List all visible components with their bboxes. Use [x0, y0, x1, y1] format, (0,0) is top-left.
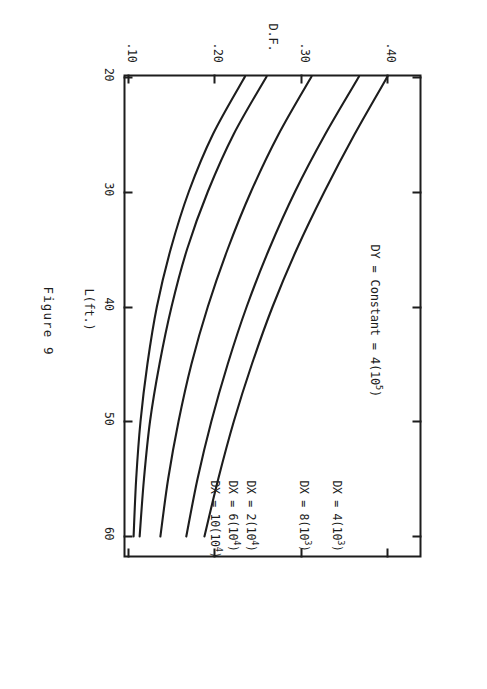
curve-label-close: ) — [225, 544, 239, 551]
y-ticklabel-040: .40 — [383, 42, 397, 62]
curve-label-dx-10e4: DX = 10(104) — [207, 480, 223, 558]
curve-label-text: DX = 8(10 — [296, 480, 310, 540]
curve-2 — [160, 76, 311, 536]
plot-frame: DY = Constant = 4(105) DX = 4(103) DX = … — [123, 74, 421, 557]
x-ticklabel-40: 40 — [101, 297, 115, 310]
y-axis-title: D.F. — [265, 23, 279, 51]
y-tick-010 — [127, 74, 129, 83]
x-ticklabel-60: 60 — [101, 526, 115, 539]
y-tick-right-040 — [386, 548, 388, 557]
y-tick-040 — [386, 74, 388, 83]
x-tick-top-30 — [412, 191, 421, 193]
curve-0 — [204, 76, 387, 536]
constant-annotation: DY = Constant = 4(105) — [367, 244, 383, 396]
y-ticklabel-030: .30 — [297, 42, 311, 62]
curve-label-exponent: 4 — [213, 546, 223, 551]
curve-label-text: DX = 2(10 — [243, 480, 257, 540]
y-tick-030 — [300, 74, 302, 83]
curve-label-close: ) — [243, 544, 257, 551]
x-tick-top-50 — [412, 420, 421, 422]
rotated-figure: DY = Constant = 4(105) DX = 4(103) DX = … — [0, 0, 487, 689]
curve-label-dx-8e3: DX = 8(103) — [296, 480, 312, 551]
x-tick-top-60 — [412, 535, 421, 537]
curve-label-text: DX = 4(10 — [329, 480, 343, 540]
constant-annotation-text: DY = Constant = 4(10 — [367, 244, 381, 385]
figure-caption: Figure 9 — [40, 286, 55, 355]
y-tick-right-010 — [127, 548, 129, 557]
curve-label-dx-6e4: DX = 6(104) — [225, 480, 241, 551]
x-axis-title: L(ft.) — [81, 288, 95, 330]
curve-label-close: ) — [329, 544, 343, 551]
constant-annotation-close: ) — [367, 389, 381, 396]
x-tick-top-20 — [412, 76, 421, 78]
curve-label-dx-2e4: DX = 2(104) — [243, 480, 259, 551]
curve-label-text: DX = 6(10 — [225, 480, 239, 540]
x-tick-40 — [123, 306, 132, 308]
curve-label-close: ) — [207, 551, 221, 558]
y-tick-020 — [213, 74, 215, 83]
x-tick-60 — [123, 535, 132, 537]
curve-label-text: DX = 10(10 — [207, 480, 221, 546]
x-tick-30 — [123, 191, 132, 193]
curve-label-close: ) — [296, 544, 310, 551]
y-ticklabel-020: .20 — [210, 42, 224, 62]
y-ticklabel-010: .10 — [124, 42, 138, 62]
x-ticklabel-20: 20 — [101, 67, 115, 80]
x-tick-50 — [123, 420, 132, 422]
x-ticklabel-50: 50 — [101, 412, 115, 425]
x-tick-top-40 — [412, 306, 421, 308]
x-ticklabel-30: 30 — [101, 182, 115, 195]
figure-page: DY = Constant = 4(105) DX = 4(103) DX = … — [0, 0, 487, 689]
curve-label-dx-4e3: DX = 4(103) — [329, 480, 345, 551]
